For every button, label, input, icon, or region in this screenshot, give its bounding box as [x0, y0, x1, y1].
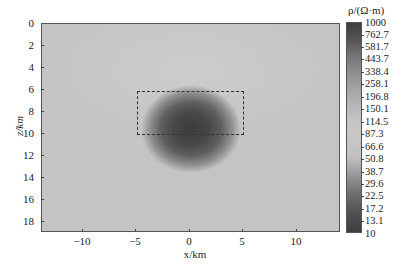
y-tick-label: 12	[0, 150, 34, 161]
y-tick-mark	[41, 155, 44, 156]
colorbar-tick-label: 196.8	[365, 91, 389, 102]
y-tick-label: 14	[0, 172, 34, 183]
colorbar-tick-label: 38.7	[365, 166, 383, 177]
colorbar-tick-mark	[361, 59, 364, 60]
colorbar-tick-label: 10	[365, 228, 376, 239]
colorbar-tick-label: 443.7	[365, 53, 389, 64]
colorbar-tick-mark	[361, 209, 364, 210]
colorbar-title: ρ/(Ω·m)	[348, 4, 384, 16]
y-tick-mark	[41, 67, 44, 68]
x-tick-mark	[296, 229, 297, 232]
colorbar-tick-mark	[361, 84, 364, 85]
colorbar-tick-label: 13.1	[365, 215, 383, 226]
colorbar-tick-label: 581.7	[365, 41, 389, 52]
colorbar-tick-mark	[361, 35, 364, 36]
y-tick-label: 18	[0, 216, 34, 227]
x-axis-label: x/km	[175, 248, 215, 260]
colorbar-tick-label: 87.3	[365, 128, 383, 139]
colorbar-tick-label: 338.4	[365, 66, 389, 77]
x-tick-label: 5	[227, 236, 257, 247]
colorbar-tick-mark	[361, 72, 364, 73]
y-axis-label: z/km	[13, 111, 25, 141]
colorbar-tick-mark	[361, 184, 364, 185]
x-tick-label: −10	[67, 236, 97, 247]
colorbar-tick-mark	[361, 196, 364, 197]
y-tick-mark	[41, 89, 44, 90]
heatmap-plot-area	[41, 23, 340, 232]
y-tick-mark	[41, 221, 44, 222]
colorbar-tick-mark	[361, 134, 364, 135]
x-tick-mark	[189, 229, 190, 232]
y-tick-mark	[41, 133, 44, 134]
colorbar-tick-label: 22.5	[365, 190, 383, 201]
y-tick-label: 6	[0, 84, 34, 95]
y-tick-label: 2	[0, 40, 34, 51]
x-tick-label: 10	[281, 236, 311, 247]
colorbar-tick-label: 66.6	[365, 141, 383, 152]
colorbar-tick-label: 150.1	[365, 103, 389, 114]
y-tick-label: 0	[0, 18, 34, 29]
y-tick-label: 16	[0, 194, 34, 205]
colorbar-tick-mark	[361, 97, 364, 98]
colorbar-tick-label: 17.2	[365, 203, 383, 214]
colorbar-tick-mark	[361, 109, 364, 110]
y-tick-mark	[41, 45, 44, 46]
x-tick-mark	[135, 229, 136, 232]
colorbar	[346, 22, 362, 233]
x-tick-mark	[82, 229, 83, 232]
colorbar-tick-mark	[361, 47, 364, 48]
x-tick-label: 0	[174, 236, 204, 247]
x-tick-label: −5	[120, 236, 150, 247]
true-model-dashed-box	[137, 91, 244, 135]
colorbar-tick-label: 50.8	[365, 153, 383, 164]
colorbar-tick-mark	[361, 122, 364, 123]
x-tick-mark	[242, 229, 243, 232]
colorbar-tick-mark	[361, 159, 364, 160]
colorbar-tick-mark	[361, 147, 364, 148]
y-tick-mark	[41, 111, 44, 112]
colorbar-tick-label: 1000	[365, 17, 386, 28]
colorbar-tick-mark	[361, 172, 364, 173]
colorbar-tick-label: 258.1	[365, 78, 389, 89]
colorbar-tick-mark	[361, 221, 364, 222]
y-tick-mark	[41, 177, 44, 178]
y-tick-mark	[41, 199, 44, 200]
colorbar-tick-label: 762.7	[365, 29, 389, 40]
y-tick-label: 4	[0, 62, 34, 73]
colorbar-tick-label: 29.6	[365, 178, 383, 189]
colorbar-tick-label: 114.5	[365, 116, 388, 127]
